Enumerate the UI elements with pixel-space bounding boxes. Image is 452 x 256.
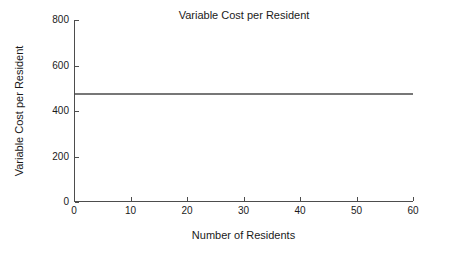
y-tick-label: 0	[63, 197, 69, 207]
x-tick-label: 30	[238, 206, 249, 216]
x-axis-title: Number of Residents	[74, 228, 413, 242]
y-tick-label: 800	[52, 15, 69, 25]
chart-figure: Variable Cost per Resident 0200400600800…	[0, 0, 452, 256]
x-tick-label: 40	[294, 206, 305, 216]
y-tick-mark	[75, 202, 79, 203]
y-tick-label: 400	[52, 106, 69, 116]
x-tick-label: 20	[181, 206, 192, 216]
series-line	[74, 20, 413, 202]
plot-area: 0200400600800 0102030405060	[74, 20, 413, 202]
x-tick-label: 50	[351, 206, 362, 216]
y-axis-title: Variable Cost per Resident	[12, 20, 26, 202]
x-tick-label: 0	[71, 206, 77, 216]
x-tick-label: 60	[407, 206, 418, 216]
x-tick-mark	[413, 197, 414, 201]
y-tick-label: 200	[52, 152, 69, 162]
x-tick-label: 10	[125, 206, 136, 216]
y-tick-label: 600	[52, 61, 69, 71]
